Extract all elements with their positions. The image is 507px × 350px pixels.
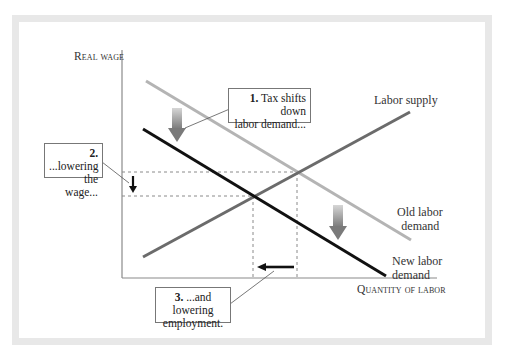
x-axis-label: Quantity of labor xyxy=(357,282,446,296)
callout-2-number: 2. xyxy=(89,147,98,159)
old-demand-line1: Old labor xyxy=(397,205,443,219)
callout-1-line2: labor demand... xyxy=(233,118,306,131)
wage-down-arrow-icon xyxy=(129,176,137,193)
employment-left-arrow-icon xyxy=(257,263,294,271)
callout-3-leader xyxy=(230,271,274,304)
new-demand-line1: New labor xyxy=(392,254,442,268)
callout-1-leader xyxy=(185,108,232,128)
labor-supply-curve xyxy=(143,112,410,257)
callout-box-2: 2. ...lowering the wage... xyxy=(44,143,103,178)
new-demand-line2: demand xyxy=(392,268,442,282)
callout-1-line1: 1. Tax shifts down xyxy=(233,92,306,118)
callout-1-text1: Tax shifts down xyxy=(258,92,306,117)
demand-shift-arrow-right-icon xyxy=(329,205,347,240)
new-labor-demand-label: New labor demand xyxy=(392,254,442,282)
callout-box-1: 1. Tax shifts down labor demand... xyxy=(228,88,311,123)
old-demand-line2: demand xyxy=(397,219,443,233)
labor-supply-label: Labor supply xyxy=(374,93,438,107)
y-axis-label: Real wage xyxy=(74,49,124,63)
callout-box-3: 3. ...and lowering employment. xyxy=(155,287,231,323)
callout-2-line1: 2. ...lowering xyxy=(49,147,98,173)
callout-2-text1: ...lowering xyxy=(49,160,99,172)
callout-3-line1: 3. ...and lowering xyxy=(160,291,226,317)
callout-3-line2: employment. xyxy=(160,317,226,330)
callout-2-line2: the wage... xyxy=(49,173,98,199)
old-labor-demand-label: Old labor demand xyxy=(397,205,443,233)
callout-3-number: 3. xyxy=(175,291,184,303)
demand-shift-arrow-left-icon xyxy=(168,108,186,142)
